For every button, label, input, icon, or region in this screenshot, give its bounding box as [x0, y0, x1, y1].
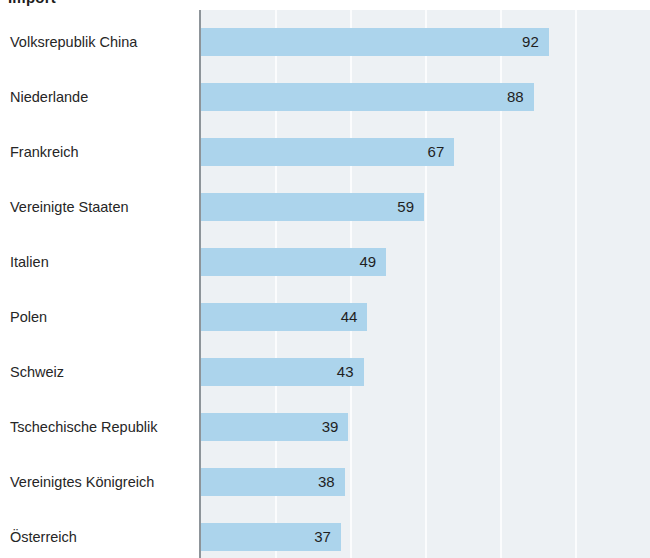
category-label: Italien — [10, 248, 49, 276]
category-label: Volksrepublik China — [10, 28, 137, 56]
chart-row: Vereinigte Staaten59 — [0, 193, 650, 221]
chart-row: Österreich37 — [0, 523, 650, 551]
chart-row: Polen44 — [0, 303, 650, 331]
bar-value-label: 92 — [201, 28, 539, 56]
category-label: Frankreich — [10, 138, 79, 166]
chart-row: Niederlande88 — [0, 83, 650, 111]
chart-row: Vereinigtes Königreich38 — [0, 468, 650, 496]
category-label: Niederlande — [10, 83, 88, 111]
bar-value-label: 38 — [201, 468, 335, 496]
bar-value-label: 44 — [201, 303, 357, 331]
category-label: Schweiz — [10, 358, 64, 386]
category-label: Österreich — [10, 523, 77, 551]
category-label: Polen — [10, 303, 47, 331]
bar-value-label: 43 — [201, 358, 354, 386]
bar-value-label: 67 — [201, 138, 444, 166]
bar-value-label: 37 — [201, 523, 331, 551]
chart-row: Tschechische Republik39 — [0, 413, 650, 441]
chart-row: Frankreich67 — [0, 138, 650, 166]
chart-row: Volksrepublik China92 — [0, 28, 650, 56]
bar-value-label: 88 — [201, 83, 524, 111]
category-label: Tschechische Republik — [10, 413, 158, 441]
bar-rows: Volksrepublik China92Niederlande88Frankr… — [0, 0, 650, 558]
chart-figure: Import Volksrepublik China92Niederlande8… — [0, 0, 650, 558]
bar-value-label: 49 — [201, 248, 376, 276]
chart-row: Schweiz43 — [0, 358, 650, 386]
category-label: Vereinigte Staaten — [10, 193, 129, 221]
bar-value-label: 39 — [201, 413, 338, 441]
bar-value-label: 59 — [201, 193, 414, 221]
chart-row: Italien49 — [0, 248, 650, 276]
category-label: Vereinigtes Königreich — [10, 468, 154, 496]
